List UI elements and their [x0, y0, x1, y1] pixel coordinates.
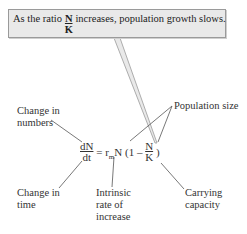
- label-population-size: Population size: [174, 100, 238, 112]
- label-line: numbers: [17, 117, 60, 129]
- label-line: time: [17, 199, 60, 211]
- ratio-numerator: N: [65, 13, 73, 24]
- label-line: capacity: [185, 199, 222, 211]
- n-k-fraction: N K: [145, 141, 153, 163]
- equals-sign: =: [96, 146, 102, 158]
- label-line: increase: [96, 211, 131, 223]
- dt: dt: [80, 152, 93, 163]
- callout-text-before: As the ratio: [13, 13, 62, 24]
- label-line: Change in: [17, 105, 60, 117]
- ratio-denominator: K: [65, 24, 73, 35]
- callout-box: As the ratio N K increases, population g…: [8, 9, 226, 38]
- callout-text: As the ratio N K increases, population g…: [13, 13, 226, 35]
- dn-dt-fraction: dN dt: [80, 141, 93, 163]
- label-carrying-capacity: Carrying capacity: [185, 187, 222, 211]
- N: N: [114, 146, 122, 158]
- label-intrinsic-rate: Intrinsic rate of increase: [96, 187, 131, 223]
- label-line: Change in: [17, 187, 60, 199]
- label-change-in-numbers: Change in numbers: [17, 105, 60, 129]
- paren-close: ): [156, 146, 160, 158]
- label-line: Intrinsic: [96, 187, 131, 199]
- equation: dN dt = rmN (1 – N K ): [80, 141, 160, 163]
- ratio-fraction: N K: [65, 13, 73, 35]
- k-denominator: K: [145, 152, 153, 163]
- paren-open: (1 –: [125, 146, 142, 158]
- label-change-in-time: Change in time: [17, 187, 60, 211]
- callout-text-after: increases, population growth slows.: [75, 13, 225, 24]
- label-line: rate of: [96, 199, 131, 211]
- label-line: Carrying: [185, 187, 222, 199]
